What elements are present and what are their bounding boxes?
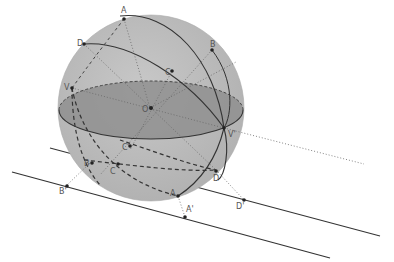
label-D: D	[77, 39, 83, 48]
label-A-low: A	[170, 189, 176, 198]
label-V-prime: V'	[228, 130, 236, 139]
label-B-prime: B'	[59, 187, 67, 196]
label-C-prime: C'	[122, 143, 130, 152]
label-V: V	[64, 83, 70, 92]
label-A: A	[121, 6, 127, 15]
sphere-diagram: A B D C O V V' C' B C A D B' A' D'	[0, 0, 394, 262]
label-D-prime: D'	[236, 202, 244, 211]
label-B: B	[210, 40, 216, 49]
label-C: C	[165, 68, 171, 77]
label-A-prime: A'	[186, 205, 194, 214]
label-O: O	[142, 105, 148, 114]
label-C-low: C	[110, 167, 116, 176]
label-B-low: B	[84, 159, 90, 168]
label-D-low: D	[213, 174, 219, 183]
